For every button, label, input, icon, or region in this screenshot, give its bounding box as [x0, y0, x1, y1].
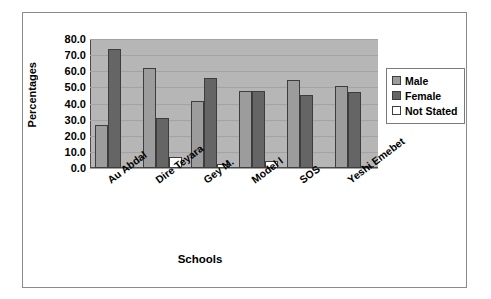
bar-female — [252, 91, 265, 168]
bar-male — [239, 91, 252, 168]
y-tick-label: 70.0 — [65, 49, 86, 61]
bar-group — [138, 39, 186, 168]
legend-item[interactable]: Not Stated — [392, 103, 458, 118]
bar-group — [234, 39, 282, 168]
y-tick-label: 10.0 — [65, 146, 86, 158]
legend-label: Not Stated — [405, 105, 458, 117]
bars-layer — [90, 39, 378, 168]
legend-swatch-icon — [392, 76, 401, 85]
y-axis-title: Percentages — [26, 62, 42, 127]
bar-female — [108, 49, 121, 168]
y-tick-label: 80.0 — [65, 33, 86, 45]
bar-male — [287, 80, 300, 168]
y-tick-label: 30.0 — [65, 114, 86, 126]
bar-male — [95, 125, 108, 168]
bar-female — [300, 95, 313, 168]
legend-item[interactable]: Male — [392, 73, 458, 88]
bar-group — [90, 39, 138, 168]
y-axis-tick-labels: 80.070.060.050.040.030.020.010.00.0 — [46, 32, 86, 175]
y-tick-label: 50.0 — [65, 81, 86, 93]
y-tick-label: 60.0 — [65, 65, 86, 77]
legend-item[interactable]: Female — [392, 88, 458, 103]
legend-swatch-icon — [392, 91, 401, 100]
legend-label: Female — [405, 90, 441, 102]
bar-female — [348, 92, 361, 168]
bar-group — [330, 39, 378, 168]
y-tick-label: 0.0 — [71, 162, 86, 174]
x-axis-title: Schools — [0, 253, 400, 265]
plot-area — [90, 39, 378, 168]
legend-label: Male — [405, 75, 428, 87]
bar-group — [282, 39, 330, 168]
y-tick-label: 40.0 — [65, 98, 86, 110]
bar-male — [335, 86, 348, 168]
y-tick-label: 20.0 — [65, 130, 86, 142]
bar-female — [204, 78, 217, 168]
legend-swatch-icon — [392, 106, 401, 115]
bar-female — [156, 118, 169, 168]
bar-chart: Percentages 80.070.060.050.040.030.020.0… — [0, 0, 491, 299]
chart-legend: MaleFemaleNot Stated — [386, 68, 465, 124]
